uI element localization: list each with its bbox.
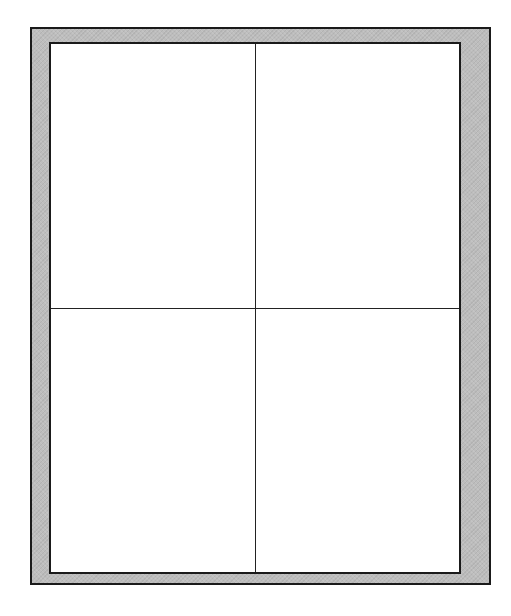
grid-panel xyxy=(49,42,461,574)
grid-cell-top-left xyxy=(51,44,256,309)
grid-cell-bottom-right xyxy=(256,309,459,572)
outer-frame xyxy=(30,27,491,585)
grid-cell-top-right xyxy=(256,44,459,309)
grid-cell-bottom-left xyxy=(51,309,256,572)
